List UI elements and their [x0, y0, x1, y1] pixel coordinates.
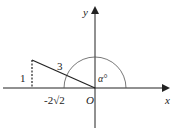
- y-axis-label: y: [82, 6, 88, 18]
- origin-label: O: [86, 94, 94, 106]
- x-axis-label: x: [164, 94, 170, 106]
- angle-label: α°: [98, 73, 107, 84]
- horizontal-side-label: -2√2: [44, 94, 65, 106]
- vertical-side-label: 1: [20, 72, 26, 84]
- terminal-side-segment: [32, 60, 95, 88]
- coordinate-diagram: y x O 1 3 -2√2 α°: [0, 0, 174, 133]
- hypotenuse-label: 3: [57, 60, 63, 72]
